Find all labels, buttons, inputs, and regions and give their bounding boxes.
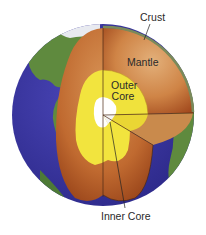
crust-label: Crust [140, 12, 165, 23]
mantle-label: Mantle [127, 57, 159, 68]
inner-core-label: Inner Core [101, 211, 151, 222]
outer-core-label-line2: Core [111, 91, 135, 102]
globe-illustration [0, 0, 206, 235]
outer-core-label: Outer Core [111, 80, 135, 102]
earth-layers-diagram: Crust Mantle Outer Core Inner Core [0, 0, 206, 235]
